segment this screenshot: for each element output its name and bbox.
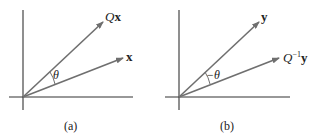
angle-label: −θ <box>206 68 220 82</box>
vector-label-x: x <box>126 49 133 64</box>
vector-Qx <box>23 22 103 97</box>
caption-a: (a) <box>64 119 77 133</box>
panel-b: −θ y Q−1y (b) <box>165 9 308 133</box>
rotation-diagram: θ Qx x (a) −θ y Q−1y (b) <box>0 0 311 139</box>
vector-label-Qinv-y: Q−1y <box>283 50 308 65</box>
vector-label-Qx: Qx <box>105 9 121 24</box>
caption-b: (b) <box>220 119 234 133</box>
vector-y <box>179 22 259 97</box>
vector-Qinv-y <box>179 58 279 97</box>
vector-label-y: y <box>261 9 268 24</box>
panel-a: θ Qx x (a) <box>9 9 133 133</box>
vector-x <box>23 58 123 97</box>
angle-label: θ <box>53 68 59 82</box>
